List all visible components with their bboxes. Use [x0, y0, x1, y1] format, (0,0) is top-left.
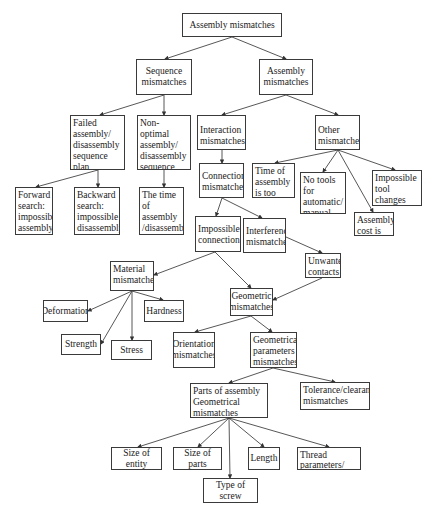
node-assembly-mismatches: Assembly mismatches [259, 59, 313, 95]
node-sequence-mismatches: Sequence mismatches [136, 59, 192, 95]
node-thread-parameters: Thread parameters/ type [297, 447, 361, 470]
node-forward-search: Forward search: impossible assembly [15, 187, 53, 235]
node-tolerance-clearance: Tolerance/clearance mismatches [300, 382, 370, 410]
node-time-assembly-disassembly: The time of assembly /disassembly is too… [139, 187, 184, 235]
node-impossible-connection: Impossible connection [195, 216, 241, 252]
node-backward-search: Backward search: impossible disassembly [74, 187, 120, 235]
node-length: Length [248, 447, 280, 470]
node-type-of-screw: Type of screw [203, 478, 258, 503]
node-connection-mismatches: Connection mismatches [199, 163, 244, 198]
node-interaction-mismatches: Interaction mismatches [197, 115, 246, 150]
node-stress: Stress [111, 340, 152, 360]
node-geometrical-parameters: Geometrical parameters mismatches [250, 332, 297, 368]
node-other-mismatches: Other mismatches [315, 115, 360, 150]
edge-layer [0, 0, 435, 514]
node-strength: Strength [61, 334, 101, 355]
node-assembly-mismatches-root: Assembly mismatches [182, 13, 282, 37]
node-deformation: Deformation [43, 300, 88, 322]
node-geometric-mismatches: Geometric mismatches [230, 288, 273, 316]
node-material-mismatches: Material mismatches [110, 261, 154, 291]
node-time-of-assembly-too-much: Time of assembly is too much [252, 163, 295, 198]
node-nonoptimal-sequence-plan: Non-optimal assembly/ disassembly sequen… [137, 115, 191, 170]
node-unwanted-contacts: Unwanted contacts [305, 253, 341, 278]
node-hardness: Hardness [144, 300, 184, 322]
node-no-tools: No tools for automatic/ manual assembly [300, 172, 346, 214]
node-parts-of-assembly: Parts of assembly Geometrical mismatches [190, 383, 268, 418]
node-size-of-entity: Size of entity [111, 447, 162, 470]
node-orientation-mismatches: Orientation mismatches [173, 332, 215, 368]
node-interference-mismatches: Interference mismatches [243, 218, 286, 253]
diagram-canvas: Assembly mismatches Sequence mismatches … [0, 0, 435, 514]
node-assembly-cost-high: Assembly cost is high [354, 212, 394, 236]
node-size-of-parts: Size of parts [173, 447, 222, 470]
node-impossible-tool-changes: Impossible tool changes operation [372, 170, 422, 206]
node-failed-sequence-plan: Failed assembly/ disassembly sequence pl… [70, 115, 125, 170]
